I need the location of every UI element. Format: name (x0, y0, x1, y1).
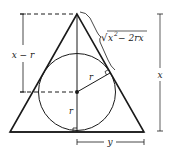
svg-text:√: √ (101, 32, 108, 43)
label-radius-tangent: r (89, 72, 94, 82)
svg-text:− 2rx: − 2rx (118, 33, 144, 43)
label-slant-length: √ x 2 − 2rx (101, 30, 147, 43)
label-half-base-y: y (106, 137, 113, 147)
label-radius-vertical: r (69, 106, 74, 116)
radius-to-tangent (77, 73, 110, 92)
inscribed-circle-triangle-diagram: x − r x y r r √ x 2 − 2rx (0, 0, 171, 156)
label-x-minus-r: x − r (12, 50, 35, 60)
svg-text:x: x (108, 33, 113, 43)
label-height-x: x (157, 70, 162, 80)
